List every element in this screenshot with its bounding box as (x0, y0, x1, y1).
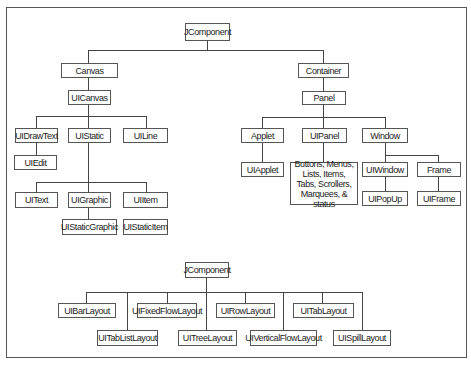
node-uifixedflowlayout: UIFixedFlowLayout (137, 303, 197, 318)
node-uistatic: UIStatic (68, 128, 111, 143)
node-applet: Applet (241, 128, 284, 143)
node-uiframe: UIFrame (417, 191, 461, 206)
node-uitablayout: UITabLayout (293, 303, 354, 318)
node-window: Window (362, 128, 408, 143)
panel-children-line-3: Tabs, Scrollers, (296, 179, 351, 189)
node-uitext: UIText (15, 192, 58, 208)
node-uitreelayout: UITreeLayout (178, 330, 237, 346)
node-uirowlayout: UIRowLayout (216, 303, 275, 318)
node-canvas: Canvas (61, 63, 118, 78)
node-panel-children: Buttons, Menus, Lists, Items, Tabs, Scro… (290, 162, 358, 205)
node-uibarlayout: UIBarLayout (58, 303, 116, 318)
panel-children-line-2: Lists, Items, (303, 169, 346, 179)
node-uiedit: UIEdit (14, 155, 57, 170)
panel-children-line-1: Buttons, Menus, (294, 159, 353, 169)
node-uistaticitem: UIStaticItem (123, 219, 168, 235)
node-container: Container (298, 63, 349, 78)
node-uicanvas: UICanvas (68, 90, 111, 105)
node-uipanel: UIPanel (302, 128, 347, 143)
node-uiline: UILine (123, 128, 168, 143)
node-uidrawtext: UIDrawText (15, 128, 58, 143)
node-frame: Frame (417, 162, 461, 177)
node-uispilllayout: UISpillLayout (333, 330, 391, 346)
node-uigraphic: UIGraphic (68, 192, 111, 208)
node-panel: Panel (302, 91, 346, 105)
node-uipopup: UIPopUp (362, 191, 408, 206)
node-uitablistlayout: UITabListLayout (97, 330, 158, 346)
node-uistaticgraphic: UIStaticGraphic (62, 219, 117, 235)
node-uiverticalflowlayout: UIVerticalFlowLayout (250, 330, 317, 346)
node-uiitem: UIItem (123, 192, 168, 208)
node-uiapplet: UIApplet (241, 162, 284, 177)
panel-children-line-4: Marquees, & status (291, 189, 357, 209)
node-uiwindow: UIWindow (362, 162, 408, 177)
node-jcomponent-bottom: JComponent (185, 262, 229, 278)
node-jcomponent-top: JComponent (185, 23, 230, 41)
